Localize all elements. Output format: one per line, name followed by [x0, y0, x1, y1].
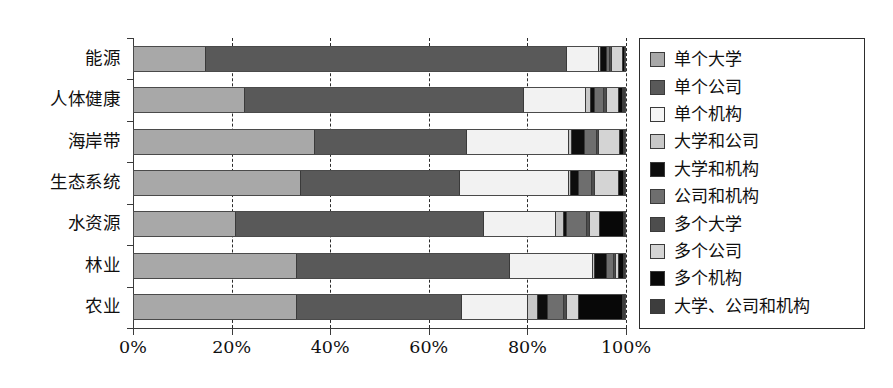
bar-segment[interactable]	[566, 295, 579, 319]
category-label: 农业	[85, 298, 120, 316]
bar-segment[interactable]	[566, 47, 598, 71]
bar-segment[interactable]	[466, 130, 568, 154]
bar-segment[interactable]	[622, 88, 624, 112]
bar-segment[interactable]	[566, 212, 586, 236]
plot-area	[133, 38, 626, 328]
x-axis-tick	[626, 328, 627, 335]
legend-item-2[interactable]: 单个机构	[650, 101, 864, 128]
x-axis-tick	[527, 328, 528, 335]
y-axis-tick	[127, 38, 133, 39]
value-axis-labels: 0%20%40%60%80%100%	[0, 339, 760, 369]
bar-segment[interactable]	[555, 212, 563, 236]
x-axis-ticks	[133, 328, 626, 336]
bar-segment[interactable]	[523, 88, 585, 112]
bar-segment[interactable]	[537, 295, 548, 319]
legend-swatch	[650, 271, 665, 286]
bar-segment[interactable]	[623, 212, 625, 236]
bar-segment[interactable]	[134, 212, 235, 236]
bar-segment[interactable]	[527, 295, 537, 319]
y-axis-tick	[127, 287, 133, 288]
category-label: 人体健康	[50, 91, 120, 109]
bar-segment[interactable]	[244, 88, 523, 112]
bar-segment[interactable]	[594, 254, 607, 278]
bar-segment[interactable]	[314, 130, 466, 154]
legend-swatch	[650, 299, 665, 314]
bar-segment[interactable]	[624, 47, 625, 71]
category-label: 海岸带	[68, 133, 121, 151]
bar-segment[interactable]	[459, 171, 568, 195]
legend-swatch	[650, 162, 665, 177]
bar-4[interactable]	[133, 211, 626, 237]
legend-swatch	[650, 244, 665, 259]
bar-segment[interactable]	[571, 130, 584, 154]
bar-1[interactable]	[133, 87, 626, 113]
bar-segment[interactable]	[296, 295, 461, 319]
legend-item-0[interactable]: 单个大学	[650, 46, 864, 73]
bar-segment[interactable]	[622, 295, 624, 319]
legend-label: 大学、公司和机构	[674, 298, 810, 315]
category-label: 林业	[85, 257, 120, 275]
legend-label: 多个机构	[674, 270, 742, 287]
bar-segment[interactable]	[594, 171, 619, 195]
bar-segment[interactable]	[578, 295, 622, 319]
legend-swatch	[650, 189, 665, 204]
category-axis-labels: 能源人体健康海岸带生态系统水资源林业农业	[0, 38, 128, 328]
bar-segment[interactable]	[134, 47, 205, 71]
bar-segment[interactable]	[300, 171, 459, 195]
bar-segment[interactable]	[623, 254, 624, 278]
bar-segment[interactable]	[134, 254, 296, 278]
bar-segment[interactable]	[235, 212, 482, 236]
bar-segment[interactable]	[623, 171, 625, 195]
legend-item-8[interactable]: 多个机构	[650, 265, 864, 292]
bar-segment[interactable]	[134, 295, 296, 319]
bar-segment[interactable]	[547, 295, 563, 319]
bar-segment[interactable]	[296, 254, 509, 278]
bar-segment[interactable]	[594, 88, 604, 112]
legend-label: 大学和机构	[674, 161, 759, 178]
stacked-bar-chart: 能源人体健康海岸带生态系统水资源林业农业 0%20%40%60%80%100% …	[0, 0, 893, 388]
bar-2[interactable]	[133, 129, 626, 155]
x-axis-label: 20%	[212, 339, 251, 357]
bar-segment[interactable]	[578, 171, 591, 195]
bar-segment[interactable]	[134, 88, 244, 112]
legend-label: 单个公司	[674, 79, 742, 96]
bar-segment[interactable]	[570, 171, 578, 195]
legend-item-6[interactable]: 多个大学	[650, 210, 864, 237]
bar-5[interactable]	[133, 253, 626, 279]
bar-0[interactable]	[133, 46, 626, 72]
bar-segment[interactable]	[509, 254, 592, 278]
bar-segment[interactable]	[599, 212, 623, 236]
y-axis-tick	[127, 204, 133, 205]
legend-item-1[interactable]: 单个公司	[650, 73, 864, 100]
bar-segment[interactable]	[598, 130, 619, 154]
legend-item-4[interactable]: 大学和机构	[650, 156, 864, 183]
legend-label: 大学和公司	[674, 133, 759, 150]
x-axis-label: 40%	[311, 339, 350, 357]
bar-3[interactable]	[133, 170, 626, 196]
category-label: 生态系统	[50, 174, 120, 192]
bar-segment[interactable]	[584, 130, 596, 154]
bar-segment[interactable]	[483, 212, 556, 236]
chart-legend: 单个大学单个公司单个机构大学和公司大学和机构公司和机构多个大学多个公司多个机构大…	[639, 38, 865, 329]
x-axis-label: 60%	[409, 339, 448, 357]
y-axis-tick	[127, 245, 133, 246]
x-axis-label: 0%	[119, 339, 147, 357]
bar-6[interactable]	[133, 294, 626, 320]
bar-segment[interactable]	[606, 254, 613, 278]
bar-segment[interactable]	[589, 212, 600, 236]
bar-segment[interactable]	[606, 88, 618, 112]
bar-segment[interactable]	[611, 47, 622, 71]
legend-label: 单个大学	[674, 51, 742, 68]
legend-item-7[interactable]: 多个公司	[650, 238, 864, 265]
legend-swatch	[650, 107, 665, 122]
legend-item-3[interactable]: 大学和公司	[650, 128, 864, 155]
legend-item-5[interactable]: 公司和机构	[650, 183, 864, 210]
legend-swatch	[650, 80, 665, 95]
bar-segment[interactable]	[461, 295, 527, 319]
legend-item-9[interactable]: 大学、公司和机构	[650, 293, 864, 320]
bar-segment[interactable]	[205, 47, 566, 71]
bar-segment[interactable]	[134, 171, 300, 195]
bar-segment[interactable]	[134, 130, 314, 154]
legend-swatch	[650, 52, 665, 67]
bar-segment[interactable]	[623, 130, 624, 154]
